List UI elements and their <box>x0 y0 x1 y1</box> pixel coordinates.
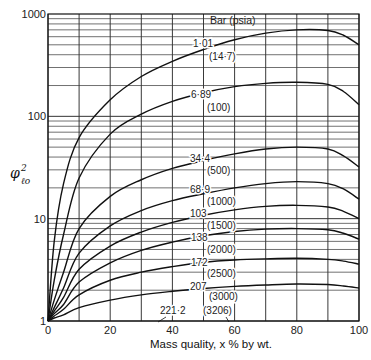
curve-label-bar: 103 <box>190 208 207 219</box>
x-tick-label: 100 <box>350 324 368 336</box>
x-tick-label: 20 <box>104 324 116 336</box>
curve-label-bar: 221·2 <box>160 305 186 316</box>
y-axis-label: φ 2 ℓo <box>10 163 31 186</box>
y-tick-label: 1000 <box>22 8 46 20</box>
curve-label-psia: (14·7) <box>209 51 236 62</box>
x-tick-label: 80 <box>291 324 303 336</box>
curve-label-bar: 138 <box>191 232 208 243</box>
two-phase-multiplier-chart: 1101001000 020406080100 1·01(14·7)6·89(1… <box>0 0 371 360</box>
svg-text:2: 2 <box>20 163 27 173</box>
curve-label-psia: (100) <box>207 102 230 113</box>
curve-label-psia: (500) <box>207 165 230 176</box>
curve-label-bar: 6·89 <box>191 89 211 100</box>
x-tick-label: 40 <box>166 324 178 336</box>
legend-title: Bar (psia) <box>210 14 256 26</box>
x-axis-ticks: 020406080100 <box>45 324 368 336</box>
curve-label-psia: (2000) <box>207 244 236 255</box>
y-tick-label: 100 <box>28 110 46 122</box>
x-axis-label: Mass quality, x % by wt. <box>150 338 272 350</box>
curve-label-psia: (1000) <box>207 196 236 207</box>
grid-lines <box>48 14 359 321</box>
curve-label-psia: (1500) <box>207 220 236 231</box>
y-tick-label: 10 <box>34 213 46 225</box>
curve-labels: 1·01(14·7)6·89(100)34·4(500)68·9(1000)10… <box>158 38 238 322</box>
curve-label-bar: 34·4 <box>190 153 210 164</box>
curve-label-bar: 172 <box>191 257 208 268</box>
curve-label-psia: (3000) <box>209 291 238 302</box>
curve-label-bar: 68·9 <box>190 184 210 195</box>
x-tick-label: 60 <box>228 324 240 336</box>
svg-text:ℓo: ℓo <box>21 176 31 186</box>
curve-label-psia: (2500) <box>207 268 236 279</box>
svg-text:φ: φ <box>10 165 20 181</box>
curve-label-bar: 207 <box>190 281 207 292</box>
x-tick-label: 0 <box>45 324 51 336</box>
curve-label-psia: (3206) <box>203 305 232 316</box>
curve-label-bar: 1·01 <box>193 38 213 49</box>
